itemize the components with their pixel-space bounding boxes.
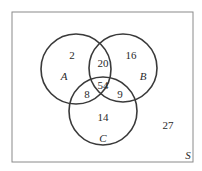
set-label-b: B (140, 70, 147, 82)
region-c-only: 14 (98, 111, 110, 123)
region-a-c: 8 (84, 88, 90, 100)
venn-diagram: 2 16 20 54 8 9 14 27 A B C S (0, 0, 202, 171)
region-b-c: 9 (117, 88, 123, 100)
region-a-b: 20 (98, 57, 110, 69)
region-b-only: 16 (126, 49, 138, 61)
set-label-c: C (99, 132, 107, 144)
universe-label: S (185, 149, 191, 161)
region-a-only: 2 (69, 49, 75, 61)
region-outside: 27 (163, 119, 175, 131)
region-a-b-c: 54 (98, 79, 110, 91)
set-label-a: A (60, 70, 68, 82)
